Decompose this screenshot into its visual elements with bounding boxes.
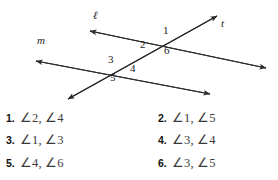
- angle-label-1: 1: [163, 25, 169, 36]
- answer-row: 3. ∠1, ∠3 4. ∠3, ∠4: [0, 132, 278, 154]
- answer-item-4[interactable]: 4. ∠3, ∠4: [158, 132, 216, 148]
- answer-text: ∠3, ∠4: [172, 132, 216, 148]
- answer-row: 5. ∠4, ∠6 6. ∠3, ∠5: [0, 155, 278, 177]
- answer-item-6[interactable]: 6. ∠3, ∠5: [158, 155, 216, 171]
- answer-item-3[interactable]: 3. ∠1, ∠3: [6, 132, 64, 148]
- line-m-right-end: [36, 61, 210, 94]
- answer-text: ∠4, ∠6: [20, 155, 64, 171]
- answer-text: ∠2, ∠4: [20, 110, 64, 126]
- angle-label-6: 6: [164, 45, 170, 56]
- answer-item-1[interactable]: 1. ∠2, ∠4: [6, 110, 64, 126]
- line-label-m-icon: m: [37, 35, 45, 46]
- line-t-upper-end: [68, 16, 217, 99]
- answer-text: ∠1, ∠3: [20, 132, 64, 148]
- answer-number: 1.: [6, 110, 15, 126]
- answer-item-2[interactable]: 2. ∠1, ∠5: [158, 110, 216, 126]
- angle-label-2: 2: [140, 39, 146, 50]
- answer-choice-list: 1. ∠2, ∠4 2. ∠1, ∠5 3. ∠1, ∠3 4. ∠3, ∠4 …: [0, 108, 278, 180]
- line-l-right-end: [90, 31, 266, 68]
- angle-label-4: 4: [130, 63, 136, 74]
- diagram-svg: [0, 0, 278, 108]
- worksheet-page: ℓ t m 1 2 6 3 4 5 1. ∠2, ∠4 2. ∠1, ∠5 3.…: [0, 0, 278, 180]
- answer-text: ∠3, ∠5: [172, 155, 216, 171]
- answer-text: ∠1, ∠5: [172, 110, 216, 126]
- answer-row: 1. ∠2, ∠4 2. ∠1, ∠5: [0, 110, 278, 132]
- angle-label-5: 5: [110, 72, 116, 83]
- angle-diagram: ℓ t m 1 2 6 3 4 5: [0, 0, 278, 108]
- angle-label-3: 3: [108, 54, 114, 65]
- answer-number: 4.: [158, 132, 167, 148]
- answer-number: 5.: [6, 155, 15, 171]
- line-label-l-icon: ℓ: [93, 10, 98, 21]
- answer-item-5[interactable]: 5. ∠4, ∠6: [6, 155, 64, 171]
- line-label-t-icon: t: [221, 18, 224, 29]
- answer-number: 3.: [6, 132, 15, 148]
- answer-number: 2.: [158, 110, 167, 126]
- answer-number: 6.: [158, 155, 167, 171]
